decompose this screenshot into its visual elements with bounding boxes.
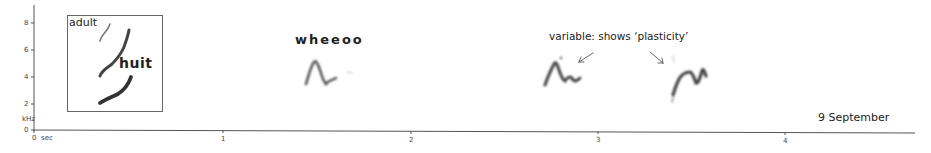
y-axis-unit: kHz [22,115,35,123]
y-tick-label: 0 [24,126,28,134]
wheeoo-spectrogram-strokes [306,61,352,84]
y-axis [31,5,34,131]
variable-plasticity-label: variable: shows ‘plasticity’ [549,30,688,42]
y-tick-label: 6 [24,46,28,54]
arrow-left-icon [579,53,593,62]
huit-label: huit [119,55,152,71]
x-axis-unit: sec [41,134,53,142]
wheeoo-label: wheeoo [295,32,364,47]
plasticity-arrows [579,52,663,63]
x-tick-label: 0 [32,134,36,142]
x-axis [34,130,915,135]
spectrogram-figure: 8 6 4 2 0 kHz 0 sec 1 2 3 4 adult huit w… [0,0,931,153]
x-tick-label: 4 [783,137,787,145]
y-tick-label: 8 [24,19,28,27]
variable-call-1-strokes [545,57,580,85]
y-tick-label: 2 [24,100,28,108]
y-tick-label: 4 [24,73,28,81]
x-tick-label: 3 [596,136,600,144]
variable-call-2-strokes [672,56,706,102]
date-label: 9 September [818,111,889,124]
spectrogram-plot [0,0,931,153]
adult-label: adult [69,16,97,29]
x-tick-label: 2 [409,136,413,144]
arrow-right-icon [650,52,663,63]
x-tick-label: 1 [221,135,225,143]
